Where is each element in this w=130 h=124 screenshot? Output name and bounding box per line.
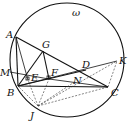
label-D: D <box>81 59 90 70</box>
segment-GF <box>43 51 49 79</box>
dashed-JB <box>18 86 38 106</box>
label-C: C <box>111 87 119 98</box>
geometry-diagram: ω A G M E F D N K B C J <box>0 0 130 124</box>
label-F: F <box>50 67 59 78</box>
label-E: E <box>30 72 39 83</box>
label-G: G <box>42 39 50 50</box>
dashed-JN <box>38 81 76 106</box>
dashed-JC <box>38 87 108 106</box>
dashed-CK <box>108 61 117 87</box>
label-K: K <box>118 55 127 66</box>
label-M: M <box>0 67 11 78</box>
label-A: A <box>5 29 13 40</box>
omega-label: ω <box>72 7 80 18</box>
segment-BC <box>18 86 108 87</box>
circle-omega <box>10 3 124 117</box>
label-J: J <box>28 110 35 121</box>
segment-ME <box>10 72 49 79</box>
segment-AC <box>16 37 108 87</box>
label-N: N <box>72 75 83 86</box>
dashed-JE <box>28 80 38 106</box>
label-B: B <box>6 87 14 98</box>
dashed-JF <box>38 79 49 106</box>
